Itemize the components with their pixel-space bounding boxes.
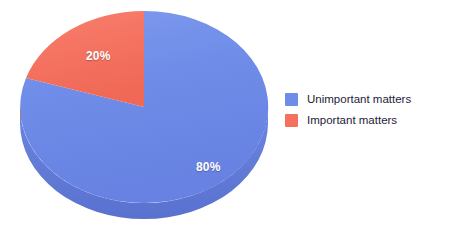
pie-chart-figure: 20% 80% Unimportant matters Important ma… [0, 0, 450, 240]
pie-graphic: 20% 80% [18, 6, 270, 230]
legend-item-unimportant-matters[interactable]: Unimportant matters [285, 93, 411, 106]
legend-item-important-matters[interactable]: Important matters [285, 114, 411, 127]
pie-top-face [20, 11, 268, 203]
legend-swatch-icon-unimportant [285, 93, 298, 106]
legend-label-important: Important matters [307, 114, 397, 127]
pie-svg [18, 6, 270, 230]
legend-label-unimportant: Unimportant matters [307, 93, 411, 106]
chart-legend: Unimportant matters Important matters [285, 93, 411, 127]
legend-swatch-icon-important [285, 114, 298, 127]
